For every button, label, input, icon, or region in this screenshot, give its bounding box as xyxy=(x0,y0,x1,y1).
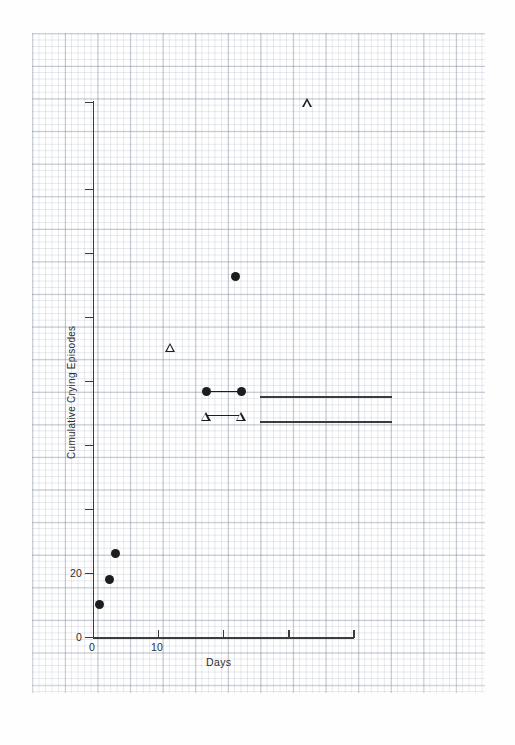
y-tick-label-0: 0 xyxy=(66,631,82,643)
data-point-circle xyxy=(105,575,114,584)
data-point-triangle xyxy=(165,343,175,352)
x-tick-label-10: 10 xyxy=(151,641,163,653)
legend-marker-open-triangle xyxy=(236,412,246,421)
legend-marker-open-triangle xyxy=(201,412,211,421)
x-tick-40 xyxy=(353,630,355,638)
y-axis-title: Cumulative Crying Episodes xyxy=(66,326,77,459)
x-tick-label-0: 0 xyxy=(89,641,95,653)
legend-marker-filled-circle xyxy=(202,387,211,396)
legend-marker-filled-circle xyxy=(237,387,246,396)
data-point-circle xyxy=(95,600,104,609)
y-tick-120 xyxy=(85,253,93,255)
x-tick-0 xyxy=(93,630,95,638)
y-tick-label-20: 20 xyxy=(60,567,82,579)
y-tick-40 xyxy=(85,509,93,511)
y-tick-20 xyxy=(85,573,93,575)
x-tick-30 xyxy=(288,630,290,638)
legend-label-rule-1 xyxy=(260,396,392,398)
y-tick-140 xyxy=(85,189,93,191)
y-tick-100 xyxy=(85,317,93,319)
y-axis-line xyxy=(93,101,95,639)
x-tick-20 xyxy=(223,630,225,638)
legend-label-rule-2 xyxy=(260,421,392,423)
y-tick-60 xyxy=(85,445,93,447)
graph-paper-sheet: 0 20 0 10 Days Cumulative Crying Episode… xyxy=(32,33,485,693)
data-point-triangle xyxy=(302,98,312,107)
y-tick-80 xyxy=(85,381,93,383)
plot-area: 0 20 0 10 Days Cumulative Crying Episode… xyxy=(32,33,485,693)
data-point-circle xyxy=(231,272,240,281)
figure-page: 0 20 0 10 Days Cumulative Crying Episode… xyxy=(0,0,515,745)
data-point-circle xyxy=(111,549,120,558)
x-axis-title: Days xyxy=(206,656,232,668)
y-tick-160 xyxy=(85,102,93,104)
x-tick-10 xyxy=(158,630,160,638)
